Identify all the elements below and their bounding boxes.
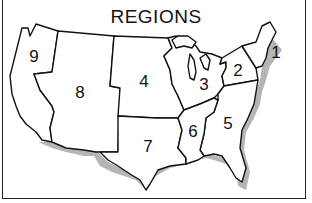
region-label-6: 6 (188, 122, 197, 141)
us-regions-map: 9 8 4 3 2 1 5 6 7 (0, 0, 312, 203)
region-label-3: 3 (199, 75, 208, 94)
region-label-7: 7 (143, 137, 152, 156)
region-label-4: 4 (139, 72, 148, 91)
region-label-5: 5 (223, 114, 232, 133)
region-label-1: 1 (271, 43, 280, 62)
region-label-2: 2 (233, 61, 242, 80)
region-label-8: 8 (75, 83, 84, 102)
region-label-9: 9 (29, 47, 38, 66)
